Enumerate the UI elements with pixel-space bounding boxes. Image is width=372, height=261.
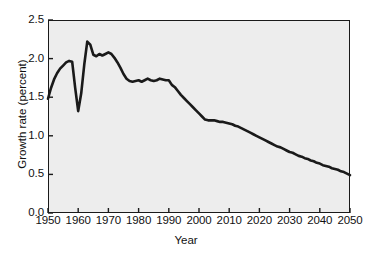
x-axis-tick-labels: 1950196019701980199020002010202020302040… [0,215,372,233]
y-tick-label: 2.5 [4,14,44,26]
x-tick-label: 2050 [328,215,372,227]
y-tick-label: 2.0 [4,53,44,65]
y-tick-label: 1.5 [4,91,44,103]
y-axis-ticks [48,20,53,213]
y-tick-label: 1.0 [4,130,44,142]
growth-rate-chart-figure: 0.00.51.01.52.02.5 195019601970198019902… [0,0,372,261]
x-axis-ticks [48,208,350,213]
growth-rate-line [48,42,350,176]
y-tick-label: 0.5 [4,168,44,180]
x-axis-title: Year [0,234,372,246]
